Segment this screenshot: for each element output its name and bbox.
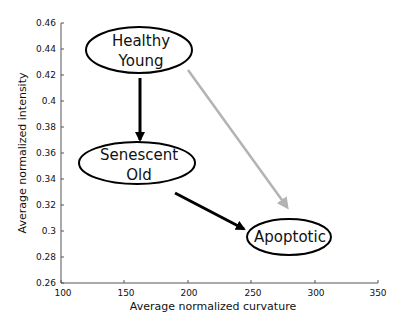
- y-tick-label: 0.44: [36, 44, 56, 54]
- node-apoptotic: Apoptotic: [247, 219, 331, 255]
- y-tick-label: 0.32: [36, 200, 56, 210]
- x-axis-title: Average normalized curvature: [130, 300, 297, 313]
- x-tick-label: 300: [307, 288, 324, 298]
- y-tick-label: 0.42: [36, 70, 56, 80]
- y-axis-title: Average normalized intensity: [16, 72, 29, 233]
- arrow-senescent-to-apoptotic: [175, 193, 244, 229]
- node-label-line1: Senescent: [100, 146, 178, 164]
- node-label-line1: Healthy: [112, 32, 170, 50]
- y-tick-label: 0.26: [36, 278, 56, 288]
- y-tick-label: 0.4: [42, 96, 57, 106]
- arrow-healthy-to-apoptotic: [188, 70, 287, 207]
- node-label-line2: Old: [126, 166, 152, 184]
- y-tick-label: 0.34: [36, 174, 56, 184]
- y-tick-label: 0.38: [36, 122, 56, 132]
- y-tick-label: 0.46: [36, 18, 56, 28]
- y-tick-label: 0.28: [36, 252, 56, 262]
- y-tick-label: 0.36: [36, 148, 56, 158]
- x-tick-label: 150: [117, 288, 134, 298]
- node-label-line2: Young: [118, 52, 164, 70]
- x-tick-label: 200: [180, 288, 197, 298]
- state-transition-diagram: 0.26 0.28 0.3 0.32 0.34 0.36 0.38 0.4 0.…: [0, 0, 404, 329]
- x-tick-label: 250: [244, 288, 261, 298]
- node-senescent-old: Senescent Old: [79, 142, 195, 184]
- y-tick-label: 0.3: [42, 226, 56, 236]
- x-tick-label: 350: [369, 288, 386, 298]
- node-healthy-young: Healthy Young: [86, 27, 192, 73]
- node-label-line1: Apoptotic: [254, 228, 326, 246]
- x-tick-label: 100: [54, 288, 71, 298]
- y-ticks: 0.26 0.28 0.3 0.32 0.34 0.36 0.38 0.4 0.…: [36, 18, 64, 288]
